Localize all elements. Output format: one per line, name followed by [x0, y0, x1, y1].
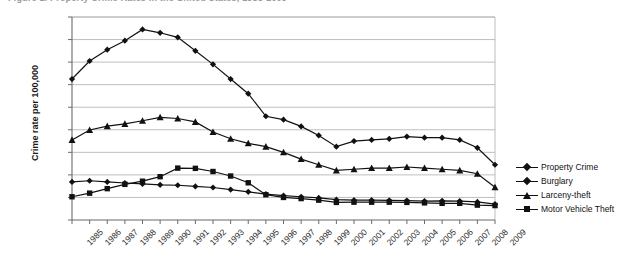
legend-item-larceny-theft[interactable]: Larceny-theft: [516, 188, 614, 202]
data-point-marker: [404, 200, 409, 205]
series-line: [72, 181, 495, 204]
data-point-marker: [210, 169, 215, 174]
data-point-marker: [439, 135, 445, 141]
plot-area: [0, 0, 623, 257]
data-point-marker: [210, 184, 216, 190]
data-point-marker: [475, 202, 480, 207]
data-point-marker: [122, 182, 127, 187]
triangle-marker-icon: [516, 190, 538, 200]
legend-item-burglary[interactable]: Burglary: [516, 174, 614, 188]
data-point-marker: [369, 199, 374, 204]
data-point-marker: [87, 190, 92, 195]
data-point-marker: [298, 123, 304, 129]
data-point-marker: [157, 182, 163, 188]
data-point-marker: [193, 166, 198, 171]
data-point-marker: [351, 199, 356, 204]
data-point-marker: [263, 192, 268, 197]
series-motor-vehicle-theft: [69, 165, 497, 208]
data-point-marker: [157, 174, 162, 179]
data-point-marker: [439, 201, 444, 206]
data-point-marker: [122, 38, 128, 44]
data-point-marker: [139, 26, 145, 32]
diamond-marker-icon: [516, 162, 538, 172]
legend-item-label: Larceny-theft: [541, 190, 591, 200]
chart-legend: Property CrimeBurglaryLarceny-theftMotor…: [516, 160, 614, 216]
data-point-marker: [175, 182, 181, 188]
data-point-marker: [316, 132, 322, 138]
legend-item-label: Motor Vehicle Theft: [541, 204, 614, 214]
data-point-marker: [422, 200, 427, 205]
data-point-marker: [421, 135, 427, 141]
data-point-marker: [333, 144, 339, 150]
series-property-crime: [69, 26, 498, 168]
data-point-marker: [404, 133, 410, 139]
legend-item-label: Property Crime: [541, 162, 598, 172]
data-point-marker: [105, 186, 110, 191]
data-point-marker: [140, 179, 145, 184]
data-point-marker: [175, 165, 180, 170]
data-point-marker: [316, 197, 321, 202]
data-point-marker: [69, 194, 74, 199]
data-point-marker: [457, 137, 463, 143]
data-point-marker: [69, 136, 76, 143]
data-point-marker: [387, 199, 392, 204]
legend-item-property-crime[interactable]: Property Crime: [516, 160, 614, 174]
data-point-marker: [351, 138, 357, 144]
data-point-marker: [69, 179, 75, 185]
data-point-marker: [104, 179, 110, 185]
data-point-marker: [246, 180, 251, 185]
data-point-marker: [386, 136, 392, 142]
data-point-marker: [228, 186, 234, 192]
data-point-marker: [157, 30, 163, 36]
data-point-marker: [492, 203, 497, 208]
diamond-marker-icon: [516, 176, 538, 186]
chart-container: Figure 1. Property Crime Rates in the Un…: [0, 0, 623, 257]
data-point-marker: [369, 137, 375, 143]
data-point-marker: [457, 201, 462, 206]
square-marker-icon: [516, 204, 538, 214]
data-point-marker: [298, 196, 303, 201]
data-point-marker: [228, 173, 233, 178]
data-point-marker: [192, 183, 198, 189]
data-point-marker: [334, 200, 339, 205]
series-line: [72, 29, 495, 164]
legend-item-label: Burglary: [541, 176, 573, 186]
data-point-marker: [87, 178, 93, 184]
legend-item-motor-vehicle-theft[interactable]: Motor Vehicle Theft: [516, 202, 614, 216]
data-point-marker: [280, 117, 286, 123]
data-point-marker: [281, 195, 286, 200]
data-point-marker: [104, 47, 110, 53]
data-point-marker: [245, 189, 251, 195]
